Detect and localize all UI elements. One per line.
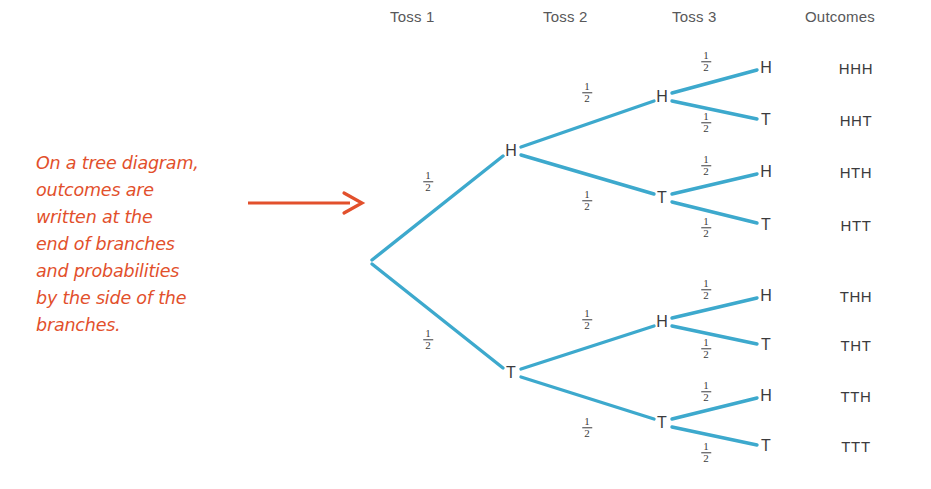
- column-header-2: Toss 2: [543, 8, 588, 25]
- probability-label-2: 12: [423, 328, 433, 351]
- node-L5: H: [760, 287, 772, 305]
- annotation-line-1: On a tree diagram,: [36, 150, 251, 177]
- probability-label-8: 12: [701, 111, 711, 134]
- probability-label-13: 12: [701, 380, 711, 403]
- probability-label-11: 12: [701, 278, 711, 301]
- node-H1: H: [505, 142, 517, 160]
- outcome-5: THH: [840, 288, 873, 305]
- fraction-denominator: 2: [701, 229, 711, 240]
- fraction-denominator: 2: [701, 124, 711, 135]
- probability-label-5: 12: [582, 308, 592, 331]
- branch-line: [672, 70, 757, 93]
- annotation-line-4: end of branches: [36, 231, 251, 258]
- node-T1: T: [506, 364, 516, 382]
- outcome-7: TTH: [841, 388, 872, 405]
- column-header-1: Toss 1: [390, 8, 435, 25]
- node-L7: H: [760, 387, 772, 405]
- branch-line: [672, 427, 757, 445]
- outcome-8: TTT: [841, 438, 870, 455]
- node-H2a: H: [656, 88, 668, 106]
- fraction-denominator: 2: [701, 454, 711, 465]
- probability-label-1: 12: [423, 170, 433, 193]
- probability-label-4: 12: [582, 189, 592, 212]
- probability-label-6: 12: [582, 416, 592, 439]
- probability-label-7: 12: [701, 50, 711, 73]
- fraction-denominator: 2: [701, 291, 711, 302]
- fraction-denominator: 2: [701, 63, 711, 74]
- fraction-denominator: 2: [701, 393, 711, 404]
- node-H2b: H: [656, 313, 668, 331]
- node-L6: T: [761, 336, 771, 354]
- annotation-line-6: by the side of the: [36, 285, 251, 312]
- branch-line: [672, 202, 757, 223]
- fraction-denominator: 2: [423, 183, 433, 194]
- outcome-2: HHT: [840, 112, 873, 129]
- fraction-denominator: 2: [582, 94, 592, 105]
- branch-line: [672, 326, 757, 344]
- tree-diagram-page: Toss 1Toss 2Toss 3Outcomes HTHTHTHTHTHTH…: [0, 0, 931, 489]
- branch-line: [372, 264, 503, 368]
- node-T2a: T: [657, 189, 667, 207]
- node-L8: T: [761, 437, 771, 455]
- branch-line: [672, 101, 757, 119]
- fraction-denominator: 2: [701, 350, 711, 361]
- node-L3: H: [760, 163, 772, 181]
- fraction-denominator: 2: [582, 429, 592, 440]
- outcome-1: HHH: [839, 60, 873, 77]
- handwritten-annotation: On a tree diagram,outcomes arewritten at…: [36, 150, 251, 339]
- right-arrow-icon: [246, 188, 366, 218]
- probability-label-14: 12: [701, 441, 711, 464]
- node-L4: T: [761, 216, 771, 234]
- fraction-denominator: 2: [423, 341, 433, 352]
- annotation-line-2: outcomes are: [36, 177, 251, 204]
- branch-line: [672, 174, 757, 194]
- annotation-line-7: branches.: [36, 312, 251, 339]
- branch-line: [521, 377, 654, 419]
- branch-line: [521, 326, 654, 369]
- outcome-4: HTT: [841, 217, 872, 234]
- outcome-3: HTH: [840, 164, 873, 181]
- outcome-6: THT: [841, 337, 872, 354]
- branch-line: [672, 398, 757, 419]
- node-L1: H: [760, 59, 772, 77]
- probability-label-12: 12: [701, 337, 711, 360]
- probability-label-3: 12: [582, 81, 592, 104]
- column-header-3: Toss 3: [672, 8, 717, 25]
- annotation-line-3: written at the: [36, 204, 251, 231]
- node-L2: T: [761, 111, 771, 129]
- fraction-denominator: 2: [701, 167, 711, 178]
- column-header-4: Outcomes: [805, 8, 875, 25]
- node-T2b: T: [657, 414, 667, 432]
- branch-line: [372, 156, 503, 260]
- branch-line: [521, 101, 654, 147]
- annotation-line-5: and probabilities: [36, 258, 251, 285]
- probability-label-10: 12: [701, 216, 711, 239]
- branch-line: [672, 298, 757, 318]
- fraction-denominator: 2: [582, 202, 592, 213]
- fraction-denominator: 2: [582, 321, 592, 332]
- branch-lines: [372, 70, 757, 445]
- probability-label-9: 12: [701, 154, 711, 177]
